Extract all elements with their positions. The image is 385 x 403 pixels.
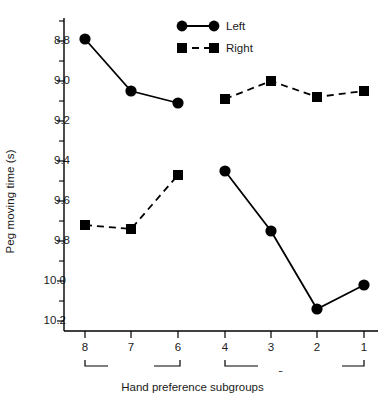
legend-swatch-right	[177, 43, 219, 53]
plot-area	[0, 0, 385, 403]
series-right-markers	[80, 76, 369, 234]
bracket-gap-left	[108, 361, 154, 371]
legend-swatch-left	[177, 21, 220, 32]
series-right-line-group-left	[85, 175, 178, 229]
series-left-markers	[79, 33, 369, 314]
series-left-line-group-right	[225, 171, 364, 309]
series-right-line-group-right	[225, 81, 364, 99]
x-major-ticks	[85, 331, 364, 338]
chart-figure: Peg moving time (s) 8.8 9.0 9.2 9.4 9.6 …	[0, 0, 385, 403]
bracket-gap-right	[258, 361, 342, 371]
